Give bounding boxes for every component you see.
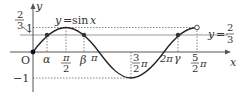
gamma-point bbox=[176, 33, 180, 37]
curve-label-y: y bbox=[54, 14, 62, 27]
tick-five-half-pi-suffix: π bbox=[199, 58, 207, 69]
tick-three-half-pi-suffix: π bbox=[140, 58, 148, 69]
origin-label: O bbox=[21, 54, 30, 67]
tick-pi: π bbox=[90, 52, 98, 63]
frac-two-thirds-den: 3 bbox=[17, 20, 23, 31]
tick-half-pi-num: π bbox=[62, 52, 70, 63]
endpoint-open bbox=[195, 25, 200, 30]
tick-beta: β bbox=[79, 54, 86, 67]
beta-point bbox=[82, 33, 86, 37]
tick-gamma: γ bbox=[174, 52, 181, 65]
y-axis-arrow-icon bbox=[31, 3, 36, 9]
line-label-eq: = bbox=[216, 28, 225, 41]
curve-label-x: x bbox=[90, 14, 97, 27]
tick-three-half-pi-num: 3 bbox=[133, 52, 139, 63]
x-axis-arrow-icon bbox=[225, 50, 231, 55]
sine-graph: y x O 1 −1 2 3 y = sin x α π 2 β π 3 2 π… bbox=[0, 0, 242, 96]
line-label-num: 2 bbox=[227, 22, 233, 33]
tick-alpha: α bbox=[43, 53, 51, 66]
line-label-y: y bbox=[207, 28, 215, 41]
alpha-point bbox=[45, 33, 49, 37]
line-label-den: 3 bbox=[227, 34, 233, 45]
origin-point bbox=[31, 50, 36, 55]
y-tick-1: 1 bbox=[26, 22, 33, 35]
tick-five-half-pi-den: 2 bbox=[192, 63, 198, 74]
tick-three-half-pi-den: 2 bbox=[133, 63, 139, 74]
y-axis-label: y bbox=[35, 0, 43, 13]
curve-label-eq: = bbox=[63, 14, 72, 27]
tick-two-pi: 2π bbox=[159, 53, 173, 64]
y-tick-minus-1: −1 bbox=[13, 72, 29, 85]
tick-half-pi-den: 2 bbox=[63, 63, 69, 74]
tick-five-half-pi-num: 5 bbox=[192, 52, 198, 63]
frac-two-thirds-num: 2 bbox=[17, 9, 23, 20]
curve-label-sin: sin bbox=[72, 14, 88, 27]
x-axis-label: x bbox=[230, 56, 237, 69]
